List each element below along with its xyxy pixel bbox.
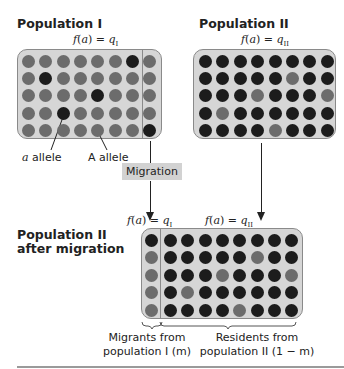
population-2-recessive-allele-dot [199,55,212,68]
resident-recessive-allele-dot [199,269,212,282]
resident-recessive-allele-dot [268,234,281,247]
population-1-dominant-allele-dot [109,55,122,68]
population-1-dominant-allele-dot [74,107,87,120]
population-1-recessive-allele-dot [143,124,156,137]
population-1-dominant-allele-dot [74,55,87,68]
resident-recessive-allele-dot [164,304,177,317]
population-1-dominant-allele-dot [109,124,122,137]
population-1-dominant-allele-dot [57,55,70,68]
population-2-recessive-allele-dot [321,72,334,85]
resident-recessive-allele-dot [181,304,194,317]
resident-recessive-allele-dot [251,269,264,282]
population-1-dominant-allele-dot [22,55,35,68]
resident-recessive-allele-dot [285,304,298,317]
population-2-recessive-allele-dot [286,55,299,68]
population-1-dominant-allele-dot [143,107,156,120]
population-1-dominant-allele-dot [57,124,70,137]
population-1-dominant-allele-dot [91,124,104,137]
population-1-dominant-allele-dot [109,107,122,120]
resident-recessive-allele-dot [251,304,264,317]
resident-recessive-allele-dot [164,234,177,247]
resident-recessive-allele-dot [199,251,212,264]
resident-recessive-allele-dot [268,269,281,282]
population-2-recessive-allele-dot [321,124,334,137]
after-migration-title: Population II after migration [17,228,124,256]
resident-dominant-allele-dot [285,269,298,282]
migrant-recessive-allele-dot [145,234,158,247]
population-1-dominant-allele-dot [126,72,139,85]
population-2-dominant-allele-dot [269,124,282,137]
after-migration-divider [160,228,161,319]
resident-dominant-allele-dot [251,251,264,264]
population-2-arrowhead-icon [257,212,265,221]
population-2-recessive-allele-dot [234,55,247,68]
population-1-dominant-allele-dot [143,55,156,68]
population-1-dominant-allele-dot [126,124,139,137]
resident-recessive-allele-dot [199,286,212,299]
population-2-recessive-allele-dot [234,124,247,137]
population-2-recessive-allele-dot [234,72,247,85]
resident-recessive-allele-dot [199,304,212,317]
resident-recessive-allele-dot [251,234,264,247]
population-2-recessive-allele-dot [234,107,247,120]
resident-recessive-allele-dot [199,234,212,247]
resident-dominant-allele-dot [216,269,229,282]
population-2-recessive-allele-dot [321,55,334,68]
bottom-rule [17,366,344,368]
population-1-recessive-allele-dot [126,55,139,68]
resident-recessive-allele-dot [216,286,229,299]
population-2-recessive-allele-dot [199,107,212,120]
population-2-recessive-allele-dot [286,124,299,137]
resident-recessive-allele-dot [268,304,281,317]
population-1-dominant-allele-dot [74,72,87,85]
population-1-dominant-allele-dot [22,124,35,137]
resident-recessive-allele-dot [216,234,229,247]
population-1-dominant-allele-dot [126,107,139,120]
migration-arrow-line-bottom [150,181,151,214]
resident-recessive-allele-dot [251,286,264,299]
population-1-recessive-allele-dot [57,107,70,120]
population-2-recessive-allele-dot [321,107,334,120]
after-migration-formula-migrants: f(a) = qI [127,214,172,229]
population-2-recessive-allele-dot [269,89,282,102]
population-1-dominant-allele-dot [39,107,52,120]
population-2-recessive-allele-dot [269,72,282,85]
population-1-dominant-allele-dot [22,107,35,120]
resident-recessive-allele-dot [233,269,246,282]
population-2-recessive-allele-dot [251,107,264,120]
migration-arrow-line-top [150,141,151,163]
migrant-dominant-allele-dot [145,269,158,282]
resident-dominant-allele-dot [233,304,246,317]
resident-recessive-allele-dot [285,234,298,247]
resident-recessive-allele-dot [268,286,281,299]
resident-recessive-allele-dot [164,269,177,282]
population-2-recessive-allele-dot [199,124,212,137]
population-2-recessive-allele-dot [269,55,282,68]
population-2-recessive-allele-dot [286,107,299,120]
population-1-dominant-allele-dot [74,124,87,137]
population-1-dominant-allele-dot [91,107,104,120]
population-1-dominant-allele-dot [109,72,122,85]
migrant-dominant-allele-dot [145,304,158,317]
population-2-recessive-allele-dot [303,107,316,120]
resident-recessive-allele-dot [216,304,229,317]
migrants-caption: Migrants from population I (m) [92,331,202,359]
residents-caption: Residents from population II (1 − m) [192,331,322,359]
population-1-dominant-allele-dot [57,89,70,102]
population-2-recessive-allele-dot [251,124,264,137]
population-1-dominant-allele-dot [109,89,122,102]
population-2-arrow-line [261,143,262,214]
after-migration-formula-residents: f(a) = qII [205,214,253,229]
migration-label: Migration [122,163,182,180]
population-2-dominant-allele-dot [216,107,229,120]
a-allele-label: a allele [22,151,62,164]
population-1-dominant-allele-dot [57,72,70,85]
population-2-recessive-allele-dot [269,107,282,120]
